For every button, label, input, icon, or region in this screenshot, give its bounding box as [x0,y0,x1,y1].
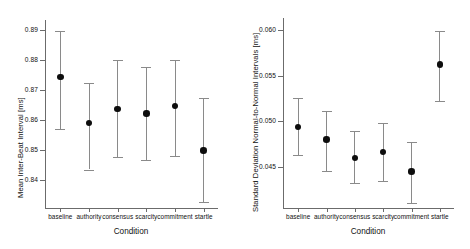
x-axis-tick-label-startle: startle [195,213,213,220]
x-axis-tick [298,208,299,212]
y-axis-tick: 0.055 [278,76,284,77]
error-bar-cap-lower [55,129,65,130]
y-axis-tick-label: 0.060 [259,26,276,33]
data-point-marker [143,110,149,116]
error-bar-cap-lower [170,156,180,157]
error-bar-cap-lower [378,181,388,182]
x-axis-tick [440,208,441,212]
y-axis-label: Mean Inter-Beat Interval [ms] [16,97,25,198]
error-bar-cap-upper [378,123,388,124]
chart-panel-right: Standard Deviation Normal-to-Normal Inte… [235,0,470,249]
error-bar-cap-lower [113,157,123,158]
y-axis-tick: 0.045 [278,167,284,168]
y-axis-tick-label: 0.85 [25,146,38,153]
y-axis-tick-label: 0.055 [259,72,276,79]
data-point-marker [172,103,178,109]
data-point-marker [352,155,358,161]
y-axis-tick-label: 0.050 [259,117,276,124]
x-axis-tick-label-commitment: commitment [157,213,192,220]
data-point-marker [57,74,63,80]
error-bar-cap-lower [199,202,209,203]
y-axis-tick-label: 0.88 [25,56,38,63]
x-axis-tick [355,208,356,212]
y-axis-tick: 0.050 [278,121,284,122]
error-bar-series [284,18,454,208]
y-axis-tick: 0.86 [40,120,46,121]
x-axis-tick-label-scarcity: scarcity [372,213,394,220]
x-axis-tick [327,208,328,212]
y-axis-tick: 0.88 [40,60,46,61]
error-bar-cap-lower [293,155,303,156]
data-point-marker [323,136,329,142]
error-bar-cap-upper [350,131,360,132]
x-axis-tick [118,208,119,212]
x-axis-tick-label-baseline: baseline [286,213,310,220]
x-axis-tick [383,208,384,212]
x-axis-tick [146,208,147,212]
data-point-marker [200,147,206,153]
error-bar-cap-lower [84,170,94,171]
error-bar-line [60,31,61,128]
error-bar-cap-lower [435,101,445,102]
y-axis-tick-label: 0.045 [259,163,276,170]
error-bar-cap-lower [322,171,332,172]
y-axis-tick-label: 0.87 [25,86,38,93]
data-point-marker [437,61,443,67]
plot-area-left: 0.840.850.860.870.880.89baselineauthorit… [45,20,218,209]
error-bar-cap-upper [170,60,180,61]
error-bar-line [89,83,90,170]
error-bar-cap-upper [407,142,417,143]
plot-area-right: 0.0450.0500.0550.060baselineauthoritycon… [283,18,454,209]
error-bar-cap-upper [199,98,209,99]
error-bar-cap-lower [350,183,360,184]
error-bar-cap-upper [293,98,303,99]
error-bar-series [46,20,218,208]
error-bar-cap-upper [55,31,65,32]
x-axis-tick-label-commitment: commitment [394,213,429,220]
y-axis-tick: 0.87 [40,90,46,91]
error-bar-cap-upper [84,83,94,84]
error-bar-cap-lower [141,160,151,161]
x-axis-tick-label-consensus: consensus [102,213,133,220]
x-axis-tick [204,208,205,212]
y-axis-tick: 0.060 [278,30,284,31]
x-axis-tick-label-authority: authority [314,213,339,220]
y-axis-tick: 0.84 [40,180,46,181]
x-axis-tick [175,208,176,212]
x-axis-tick-label-scarcity: scarcity [135,213,157,220]
chart-panel-left: Mean Inter-Beat Interval [ms] 0.840.850.… [0,0,235,249]
x-axis-tick-label-baseline: baseline [48,213,72,220]
figure: Mean Inter-Beat Interval [ms] 0.840.850.… [0,0,470,249]
error-bar-cap-upper [435,31,445,32]
data-point-marker [380,149,386,155]
x-axis-tick-label-startle: startle [431,213,449,220]
x-axis-tick [60,208,61,212]
y-axis-tick: 0.89 [40,30,46,31]
x-axis-tick [89,208,90,212]
x-axis-tick [412,208,413,212]
data-point-marker [408,168,414,174]
y-axis-tick-label: 0.84 [25,176,38,183]
error-bar-cap-lower [407,203,417,204]
data-point-marker [86,120,92,126]
data-point-marker [295,124,301,130]
error-bar-cap-upper [322,111,332,112]
error-bar-cap-upper [113,60,123,61]
y-axis-tick-label: 0.86 [25,116,38,123]
data-point-marker [114,106,120,112]
error-bar-cap-upper [141,67,151,68]
x-axis-tick-label-authority: authority [77,213,102,220]
y-axis-tick: 0.85 [40,150,46,151]
y-axis-tick-label: 0.89 [25,26,38,33]
x-axis-label: Condition [45,227,217,236]
x-axis-tick-label-consensus: consensus [339,213,370,220]
x-axis-label: Condition [283,227,453,236]
